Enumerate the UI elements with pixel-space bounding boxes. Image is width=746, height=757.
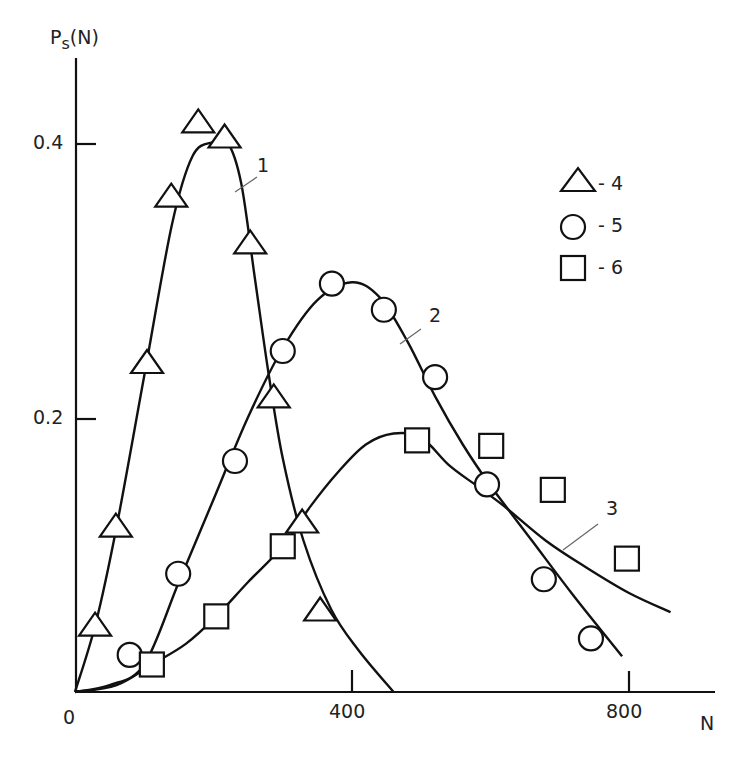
y-axis-title-subscript: s bbox=[61, 34, 69, 53]
circle-marker-icon bbox=[320, 272, 344, 296]
leader-line-1 bbox=[235, 177, 257, 192]
x-tick-label-400: 400 bbox=[329, 700, 365, 722]
data-markers bbox=[79, 109, 639, 676]
x-axis-title: N bbox=[700, 712, 714, 734]
legend-label-6: - 6 bbox=[598, 256, 623, 278]
y-axis-title-suffix: (N) bbox=[70, 26, 99, 48]
curve-label-3: 3 bbox=[606, 497, 618, 519]
square-marker-icon bbox=[541, 478, 565, 502]
leader-line-2 bbox=[400, 329, 421, 344]
circle-marker-icon bbox=[118, 643, 142, 667]
chart-plot-area bbox=[0, 0, 746, 757]
y-axis-title: Ps(N) bbox=[50, 26, 99, 48]
curve-1 bbox=[75, 138, 394, 692]
curve-label-2: 2 bbox=[429, 304, 441, 326]
circle-marker-icon bbox=[532, 567, 556, 591]
y-tick-label-0.4: 0.4 bbox=[33, 131, 63, 153]
curve-label-1: 1 bbox=[257, 154, 269, 176]
legend-circle-icon bbox=[561, 215, 585, 239]
circle-marker-icon bbox=[475, 472, 499, 496]
square-marker-icon bbox=[615, 547, 639, 571]
legend-label-5: - 5 bbox=[598, 214, 623, 236]
circle-marker-icon bbox=[271, 339, 295, 363]
y-tick-label-0.2: 0.2 bbox=[33, 406, 63, 428]
triangle-marker-icon bbox=[131, 350, 163, 373]
legend-triangle-icon bbox=[561, 168, 595, 191]
square-marker-icon bbox=[479, 434, 503, 458]
circle-marker-icon bbox=[579, 626, 603, 650]
leader-line-3 bbox=[563, 524, 598, 550]
axes bbox=[75, 58, 715, 692]
triangle-marker-icon bbox=[100, 514, 132, 537]
triangle-marker-icon bbox=[209, 125, 241, 148]
square-marker-icon bbox=[140, 653, 164, 677]
legend bbox=[561, 168, 595, 280]
triangle-marker-icon bbox=[234, 230, 266, 253]
square-marker-icon bbox=[271, 534, 295, 558]
square-marker-icon bbox=[204, 604, 228, 628]
y-axis-title-main: P bbox=[50, 26, 61, 48]
circle-marker-icon bbox=[166, 562, 190, 586]
triangle-marker-icon bbox=[79, 613, 111, 636]
circle-marker-icon bbox=[423, 365, 447, 389]
triangle-marker-icon bbox=[182, 109, 214, 132]
triangle-marker-icon bbox=[286, 510, 318, 533]
x-tick-label-800: 800 bbox=[606, 700, 642, 722]
legend-square-icon bbox=[561, 256, 585, 280]
circle-marker-icon bbox=[223, 449, 247, 473]
circle-marker-icon bbox=[372, 298, 396, 322]
square-marker-icon bbox=[405, 428, 429, 452]
x-tick-label-0: 0 bbox=[63, 706, 75, 728]
legend-label-4: - 4 bbox=[598, 172, 623, 194]
